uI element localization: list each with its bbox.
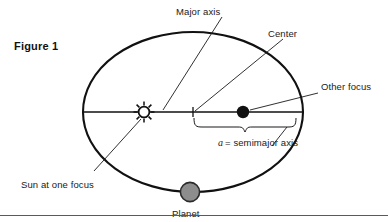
planet-label: Planet (172, 208, 200, 219)
other-focus-dot-icon (237, 106, 249, 118)
planet-circle-icon (180, 182, 199, 201)
semimajor-symbol-label: a (218, 137, 223, 148)
orbit-diagram-svg: Figure 1 Major axis Center Other focus S… (0, 0, 388, 222)
sun-icon (134, 102, 155, 123)
sun-at-one-focus-label: Sun at one focus (21, 179, 94, 190)
semimajor-axis-label: = semimajor axis (225, 137, 298, 148)
figure-caption-label: Figure 1 (14, 40, 58, 52)
center-label: Center (268, 28, 297, 39)
major-axis-label: Major axis (176, 6, 220, 17)
other-focus-label: Other focus (321, 81, 371, 92)
figure-container: Figure 1 Major axis Center Other focus S… (0, 0, 388, 222)
